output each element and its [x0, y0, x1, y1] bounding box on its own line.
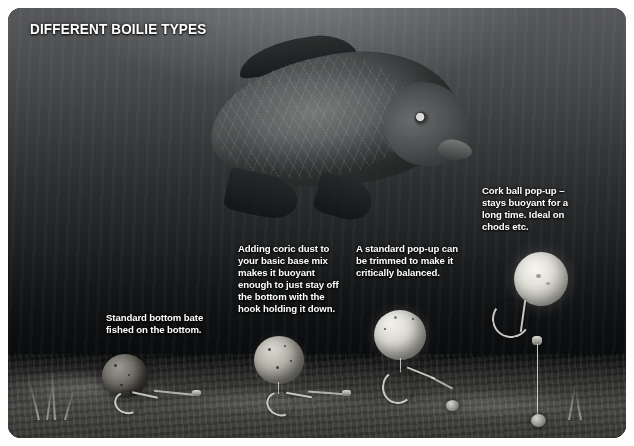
- caption-cork-ball-pop-up: Cork ball pop-up – stays buoyant for a l…: [482, 185, 586, 233]
- illustration-figure: DIFFERENT BOILIE TYPES Standard bottom b…: [8, 8, 626, 438]
- figure-title: DIFFERENT BOILIE TYPES: [30, 21, 206, 37]
- caption-standard-pop-up: A standard pop-up can be trimmed to make…: [356, 243, 460, 279]
- caption-coric-dust-wafter: Adding coric dust to your basic base mix…: [238, 243, 346, 316]
- caption-standard-bottom-bait: Standard bottom bate fished on the botto…: [106, 312, 210, 336]
